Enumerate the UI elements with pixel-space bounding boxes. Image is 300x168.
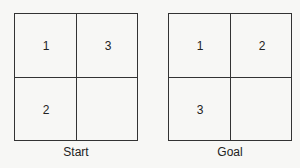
tile: 2 <box>15 78 77 142</box>
empty-tile <box>231 78 293 142</box>
tile: 2 <box>231 14 293 78</box>
empty-tile <box>77 78 139 142</box>
start-grid: 1 3 2 <box>14 13 138 141</box>
start-caption: Start <box>36 145 116 159</box>
tile: 3 <box>77 14 139 78</box>
goal-grid: 1 2 3 <box>168 13 292 141</box>
tile: 1 <box>169 14 231 78</box>
goal-caption: Goal <box>190 145 270 159</box>
tile: 1 <box>15 14 77 78</box>
tile: 3 <box>169 78 231 142</box>
